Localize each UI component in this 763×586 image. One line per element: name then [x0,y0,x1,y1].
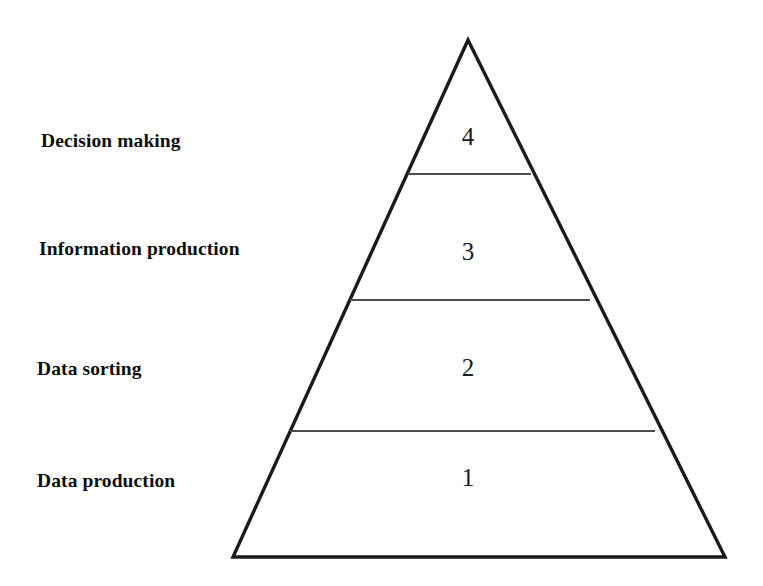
tier-number-2: 2 [448,355,488,380]
tier-label-data-sorting: Data sorting [37,359,142,379]
pyramid-diagram-canvas: Decision making Information production D… [0,0,763,586]
tier-number-3: 3 [448,239,488,264]
tier-number-4: 4 [448,124,488,149]
tier-label-decision-making: Decision making [41,131,181,151]
pyramid-shape [0,0,763,586]
tier-number-1: 1 [448,465,488,490]
tier-label-information-production: Information production [39,239,240,259]
tier-label-data-production: Data production [37,471,175,491]
